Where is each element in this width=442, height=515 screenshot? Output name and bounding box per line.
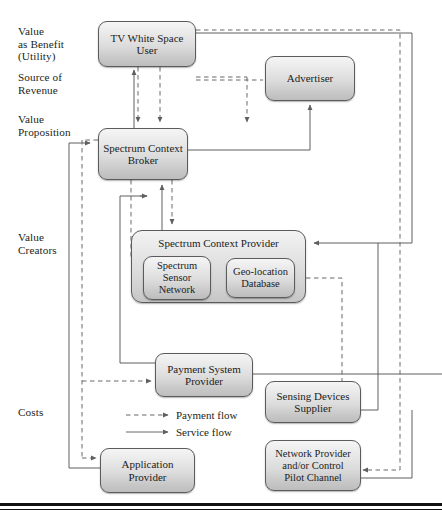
- node-payment-system-provider[interactable]: Payment System Provider: [155, 353, 253, 397]
- legend-service-flow-label: Service flow: [176, 426, 232, 438]
- legend-payment-flow-label: Payment flow: [176, 409, 237, 421]
- figure-canvas: Value as Benefit (Utility) Source of Rev…: [0, 0, 442, 515]
- node-geo-location-database[interactable]: Geo-location Database: [226, 258, 295, 298]
- flow-network-to-right-rail: [361, 410, 412, 478]
- spectrum-context-provider-title: Spectrum Context Provider: [132, 237, 305, 250]
- node-network-provider[interactable]: Network Provider and/or Control Pilot Ch…: [265, 440, 361, 491]
- axis-label-value-proposition: Value Proposition: [18, 113, 71, 138]
- node-advertiser[interactable]: Advertiser: [265, 56, 355, 101]
- node-spectrum-context-broker[interactable]: Spectrum Context Broker: [98, 128, 188, 180]
- node-tv-white-space-user[interactable]: TV White Space User: [98, 21, 196, 67]
- flow-left-rail-to-broker: [69, 143, 90, 468]
- bottom-rule-thick: [0, 503, 442, 506]
- axis-label-costs: Costs: [18, 406, 43, 419]
- flow-broker-to-advertiser: [188, 105, 310, 150]
- flow-sensing-to-provider: [361, 243, 378, 410]
- node-application-provider[interactable]: Application Provider: [100, 448, 195, 493]
- axis-label-value-creators: Value Creators: [18, 231, 57, 256]
- axis-label-source-of-revenue: Source of Revenue: [18, 71, 62, 96]
- node-sensing-devices-supplier[interactable]: Sensing Devices Supplier: [265, 381, 361, 423]
- bottom-rule-thin: [0, 509, 442, 510]
- node-spectrum-sensor-network[interactable]: Spectrum Sensor Network: [143, 256, 211, 300]
- axis-label-value-as-benefit: Value as Benefit (Utility): [18, 25, 64, 63]
